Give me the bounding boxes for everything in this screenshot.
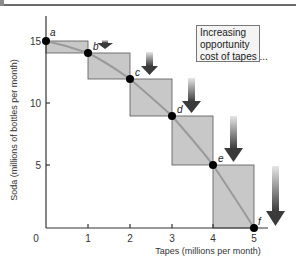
- x-tick-3: 3: [169, 233, 175, 244]
- down-arrow-icon: [141, 52, 158, 75]
- point-a: [42, 37, 50, 45]
- callout-line-3: cost of tapes ...: [200, 51, 256, 63]
- point-label-d: d: [177, 104, 183, 115]
- point-f: [250, 224, 258, 232]
- x-tick-5: 5: [251, 233, 257, 244]
- y-tick-5: 5: [35, 160, 41, 171]
- y-tick-15: 15: [30, 36, 42, 47]
- y-axis-label: Soda (millions of bottles per month): [9, 59, 19, 201]
- point-d: [168, 112, 176, 120]
- point-e: [209, 161, 217, 169]
- down-arrow-icon: [266, 166, 285, 226]
- x-tick-1: 1: [85, 233, 91, 244]
- annotation-callout: Increasing opportunity cost of tapes ...: [196, 25, 260, 62]
- down-arrow-icon: [182, 78, 201, 113]
- y-tick-10: 10: [30, 98, 42, 109]
- down-arrow-icon: [224, 116, 243, 162]
- x-axis-label: Tapes (millions per month): [155, 246, 261, 256]
- point-c: [126, 75, 134, 83]
- callout-line-1: Increasing: [200, 27, 256, 39]
- x-tick-0: 0: [33, 233, 39, 244]
- point-label-e: e: [218, 153, 224, 164]
- point-label-b: b: [93, 41, 99, 52]
- x-tick-2: 2: [127, 233, 133, 244]
- down-arrow-icon: [97, 40, 113, 49]
- x-tick-4: 4: [210, 233, 216, 244]
- callout-line-2: opportunity: [200, 39, 256, 51]
- point-label-c: c: [135, 67, 140, 78]
- point-label-f: f: [258, 216, 262, 227]
- point-label-a: a: [50, 27, 56, 38]
- point-b: [84, 49, 92, 57]
